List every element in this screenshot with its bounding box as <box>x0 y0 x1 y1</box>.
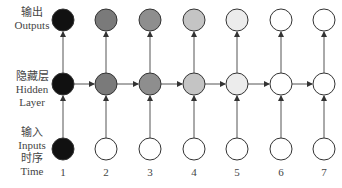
time-step-2: 2 <box>96 166 116 178</box>
time-step-6: 6 <box>271 166 291 178</box>
output-node <box>95 9 117 31</box>
outputs-label: 输出 Outputs <box>7 6 57 32</box>
inputs-label: 输入 Inputs 时序 Time <box>7 126 57 178</box>
time-step-4: 4 <box>184 166 204 178</box>
inputs-zh: 输入 <box>7 126 57 139</box>
hidden-zh: 隐藏层 <box>7 70 57 83</box>
hidden-node <box>313 73 335 95</box>
input-node <box>226 138 248 160</box>
output-node <box>183 9 205 31</box>
output-node <box>313 9 335 31</box>
output-node <box>270 9 292 31</box>
hidden-en2: Layer <box>7 96 57 109</box>
hidden-node <box>226 73 248 95</box>
outputs-zh: 输出 <box>7 6 57 19</box>
input-node <box>313 138 335 160</box>
inputs-en: Inputs <box>7 139 57 152</box>
time-step-3: 3 <box>140 166 160 178</box>
hidden-label: 隐藏层 Hidden Layer <box>7 70 57 109</box>
outputs-en: Outputs <box>7 19 57 32</box>
output-node <box>226 9 248 31</box>
hidden-node <box>139 73 161 95</box>
hidden-node <box>183 73 205 95</box>
hidden-node <box>95 73 117 95</box>
time-zh: 时序 <box>7 152 57 165</box>
input-node <box>270 138 292 160</box>
time-step-7: 7 <box>314 166 334 178</box>
hidden-node <box>270 73 292 95</box>
input-node <box>139 138 161 160</box>
input-node <box>95 138 117 160</box>
time-step-5: 5 <box>227 166 247 178</box>
output-node <box>139 9 161 31</box>
time-en: Time <box>7 165 57 178</box>
time-step-1: 1 <box>53 166 73 178</box>
input-node <box>183 138 205 160</box>
hidden-en1: Hidden <box>7 83 57 96</box>
